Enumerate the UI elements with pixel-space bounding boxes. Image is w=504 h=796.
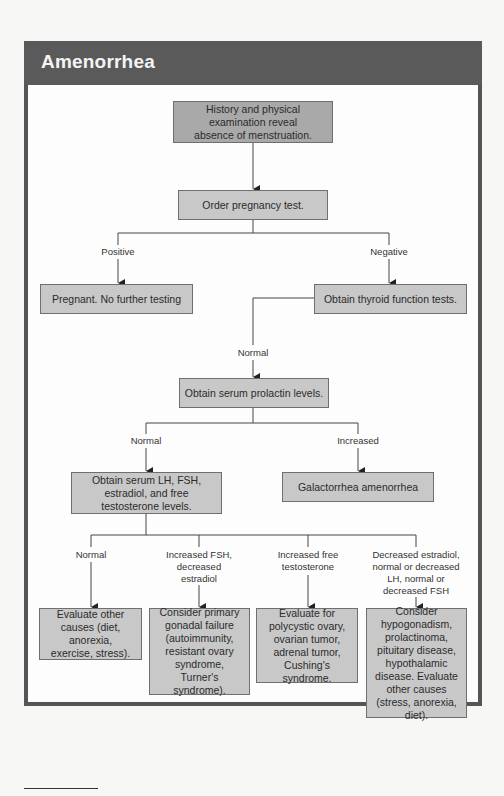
label-prolactin-normal: Normal xyxy=(127,435,165,447)
node-galactorrhea: Galactorrhea amenorrhea xyxy=(282,472,434,502)
node-polycystic: Evaluate for polycystic ovary, ovarian t… xyxy=(256,608,358,683)
label-positive: Positive xyxy=(98,246,138,258)
label-hormones-estradiol: Decreased estradiol, normal or decreased… xyxy=(368,549,464,597)
label-prolactin-increased: Increased xyxy=(334,435,382,447)
label-hormones-testosterone: Increased free testosterone xyxy=(276,549,340,573)
node-start: History and physical examination reveal … xyxy=(173,101,333,143)
label-negative: Negative xyxy=(366,246,412,258)
footnote-rule xyxy=(24,788,98,789)
node-other-causes: Evaluate other causes (diet, anorexia, e… xyxy=(39,608,142,660)
label-thyroid-normal: Normal xyxy=(234,347,272,359)
label-hormones-fsh: Increased FSH, decreased estradiol xyxy=(159,549,239,585)
node-pregnant: Pregnant. No further testing xyxy=(40,284,193,314)
label-hormones-normal: Normal xyxy=(72,549,110,561)
node-hypogonadism: Consider hypogonadism, prolactinoma, pit… xyxy=(366,608,467,718)
node-pregnancy-test: Order pregnancy test. xyxy=(178,190,328,220)
node-prolactin: Obtain serum prolactin levels. xyxy=(179,378,329,408)
node-hormones: Obtain serum LH, FSH, estradiol, and fre… xyxy=(71,472,222,514)
node-gonadal-failure: Consider primary gonadal failure (autoim… xyxy=(149,608,250,695)
node-thyroid: Obtain thyroid function tests. xyxy=(314,284,467,314)
